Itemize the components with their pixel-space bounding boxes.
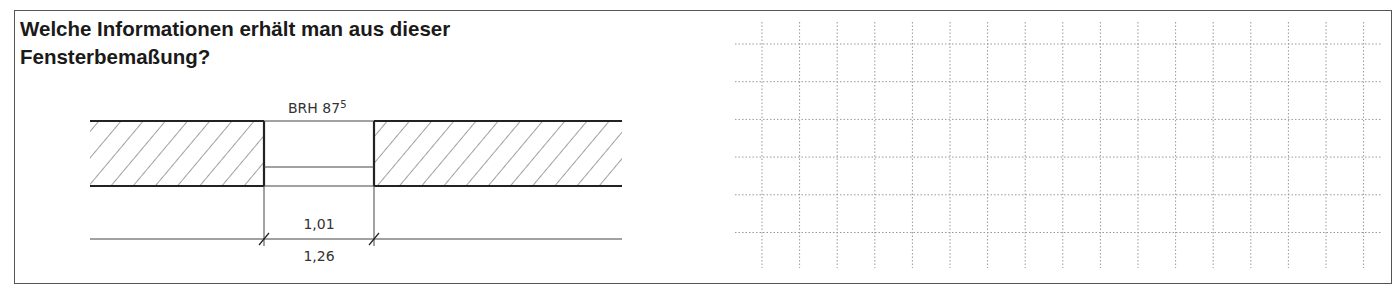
brh-label: BRH 875 bbox=[288, 99, 347, 116]
window-opening bbox=[264, 121, 374, 186]
window-dimension-drawing: BRH 875 1,01 1,26 bbox=[0, 0, 1395, 307]
inner-dimension-label: 1,01 bbox=[303, 216, 334, 232]
dimension-line bbox=[90, 233, 622, 245]
outer-dimension-label: 1,26 bbox=[303, 248, 334, 264]
answer-grid[interactable] bbox=[735, 22, 1382, 268]
left-wall-section bbox=[90, 121, 264, 186]
right-wall-section bbox=[374, 121, 622, 186]
